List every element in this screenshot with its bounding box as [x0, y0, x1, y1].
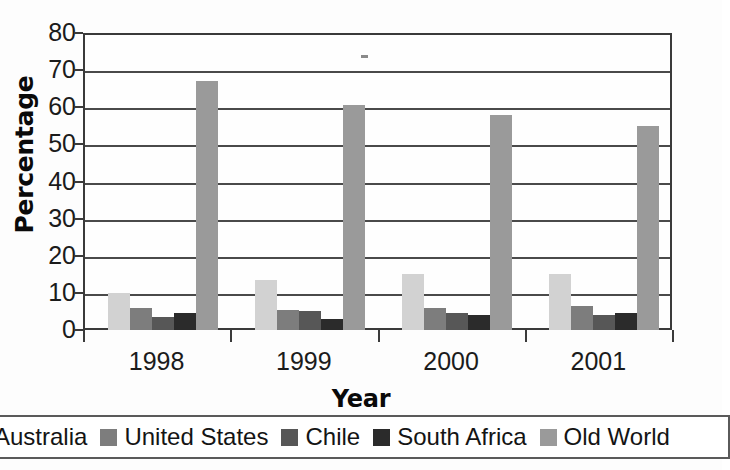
bar [174, 313, 196, 330]
x-axis-tick-label: 1998 [97, 347, 217, 376]
bar [490, 115, 512, 330]
y-axis-tick-label: 0 [30, 317, 76, 342]
y-axis-tick-label: 70 [30, 57, 76, 82]
legend-item[interactable]: United States [100, 425, 268, 449]
y-axis-tick-mark [74, 218, 83, 220]
legend-label: Old World [564, 425, 670, 449]
legend-swatch-icon [373, 429, 390, 446]
y-axis-tick-label: 80 [30, 20, 76, 45]
bar [615, 313, 637, 330]
bar [152, 317, 174, 330]
y-axis-tick-label: 10 [30, 280, 76, 305]
bar [277, 310, 299, 330]
y-axis-tick-mark [74, 32, 83, 34]
legend-label: United States [124, 425, 268, 449]
x-axis-tick-mark [83, 330, 85, 342]
bar [571, 306, 593, 330]
legend-swatch-icon [540, 429, 557, 446]
y-axis-tick-labels: 80706050403020100 [20, 33, 76, 330]
bar-group [108, 33, 218, 330]
y-axis-tick-marks [74, 33, 83, 330]
y-axis-tick-mark [74, 143, 83, 145]
bar [321, 319, 343, 330]
bar [196, 81, 218, 330]
legend-swatch-icon [100, 429, 117, 446]
x-axis-tick-mark [672, 330, 674, 342]
legend-label: South Africa [397, 425, 526, 449]
legend-item[interactable]: South Africa [373, 425, 526, 449]
x-axis-tick-label: 2000 [391, 347, 511, 376]
bar [402, 274, 424, 330]
x-axis-tick-mark [230, 330, 232, 342]
bar [468, 315, 490, 330]
bar [299, 311, 321, 330]
y-axis-tick-label: 30 [30, 206, 76, 231]
x-axis-tick-label: 1999 [244, 347, 364, 376]
x-axis-title: Year [0, 385, 722, 413]
y-axis-tick-mark [74, 181, 83, 183]
bar [130, 308, 152, 330]
legend: AustraliaUnited StatesChileSouth AfricaO… [0, 415, 730, 459]
bar-group [549, 33, 659, 330]
y-axis-tick-label: 20 [30, 243, 76, 268]
y-axis-tick-label: 50 [30, 131, 76, 156]
bar [446, 313, 468, 330]
y-axis-tick-mark [74, 329, 83, 331]
x-axis-tick-label: 2001 [538, 347, 658, 376]
x-axis-tick-mark [378, 330, 380, 342]
legend-item[interactable]: Australia [0, 425, 87, 449]
y-axis-tick-label: 40 [30, 169, 76, 194]
y-axis-tick-mark [74, 69, 83, 71]
y-axis-tick-mark [74, 106, 83, 108]
legend-item[interactable]: Chile [281, 425, 360, 449]
bar [255, 280, 277, 330]
bar [343, 105, 365, 330]
y-axis-tick-label: 60 [30, 94, 76, 119]
bar [108, 293, 130, 330]
legend-swatch-icon [281, 429, 298, 446]
bar-group [402, 33, 512, 330]
legend-label: Chile [305, 425, 360, 449]
bar [424, 308, 446, 330]
bar [593, 315, 615, 330]
x-axis-tick-mark [525, 330, 527, 342]
bar-groups [83, 33, 672, 330]
y-axis-tick-mark [74, 292, 83, 294]
bar-group [255, 33, 365, 330]
legend-label: Australia [0, 425, 87, 449]
y-axis-tick-mark [74, 255, 83, 257]
bar [549, 274, 571, 330]
legend-item[interactable]: Old World [540, 425, 670, 449]
bar [637, 126, 659, 330]
